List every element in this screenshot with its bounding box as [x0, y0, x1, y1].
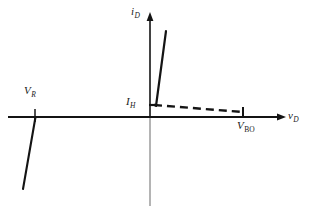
x-axis-label-voltage: vD — [288, 110, 298, 121]
x-axis-subscript: D — [293, 115, 298, 124]
x-axis-arrowhead-icon — [277, 113, 286, 120]
y-axis-subscript: D — [134, 11, 139, 20]
breakover-voltage-symbol: V — [237, 119, 244, 131]
y-axis-arrowhead-icon — [147, 12, 154, 21]
forward-conduction-branch — [156, 31, 166, 106]
breakover-voltage-subscript: BO — [244, 125, 254, 134]
iv-curve-plot — [0, 0, 313, 223]
y-axis-label-current: iD — [131, 6, 139, 17]
negative-resistance-dashed-branch — [154, 105, 243, 112]
holding-current-subscript: H — [130, 101, 135, 110]
breakover-voltage-label: VBO — [237, 120, 254, 131]
iv-characteristic-figure: iD vD VR IH VBO — [0, 0, 313, 223]
reverse-breakdown-branch — [23, 117, 36, 189]
reverse-voltage-label: VR — [24, 85, 35, 96]
reverse-voltage-subscript: R — [31, 90, 36, 99]
holding-current-label: IH — [126, 96, 135, 107]
reverse-voltage-symbol: V — [24, 84, 31, 96]
